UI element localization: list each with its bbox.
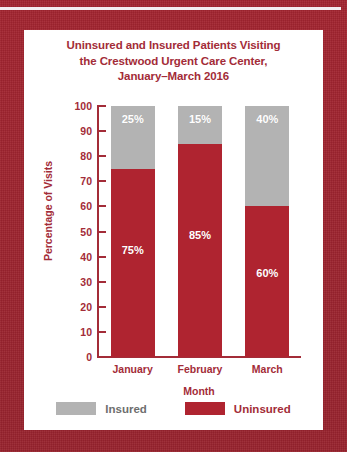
bar-segment-uninsured: 75% (111, 169, 155, 357)
y-axis-tick (99, 306, 106, 308)
x-axis-tick-label: January (99, 363, 166, 375)
legend-swatch (56, 402, 96, 415)
y-axis-tick (99, 231, 106, 233)
bar-value-label: 85% (189, 229, 211, 241)
y-axis-tick-label: 100 (24, 100, 92, 112)
y-axis-tick-label: 10 (24, 326, 92, 338)
y-axis-tick (99, 180, 106, 182)
bar-segment-uninsured: 60% (245, 206, 289, 357)
y-axis-tick (99, 155, 106, 157)
legend-swatch (185, 402, 225, 415)
legend-item[interactable]: Insured (56, 402, 147, 415)
y-axis-tick (99, 130, 106, 132)
chart-card: Uninsured and Insured Patients Visiting … (24, 30, 323, 430)
y-axis-tick (99, 205, 106, 207)
bar-value-label: 15% (189, 113, 211, 125)
bar-value-label: 60% (256, 267, 278, 279)
chart-legend: InsuredUninsured (24, 402, 323, 415)
bar-segment-insured: 15% (178, 106, 222, 144)
y-axis-tick (99, 356, 106, 358)
y-axis-tick-label: 60 (24, 200, 92, 212)
y-axis-tick-label: 90 (24, 125, 92, 137)
y-axis-tick (99, 281, 106, 283)
legend-label: Insured (105, 403, 147, 415)
bar-value-label: 25% (122, 113, 144, 125)
legend-label: Uninsured (234, 403, 291, 415)
y-axis-tick (99, 331, 106, 333)
y-axis-tick (99, 105, 106, 107)
x-axis-tick-label: February (166, 363, 233, 375)
bar-segment-uninsured: 85% (178, 144, 222, 357)
bar-segment-insured: 40% (245, 106, 289, 206)
plot-area: 0102030405060708090100 Percentage of Vis… (24, 30, 323, 430)
top-divider-rule (0, 7, 341, 10)
legend-item[interactable]: Uninsured (185, 402, 291, 415)
bar-segment-insured: 25% (111, 106, 155, 169)
bar-group: 15%85% (178, 106, 222, 357)
bar-value-label: 40% (256, 113, 278, 125)
y-axis-tick-label: 0 (24, 351, 92, 363)
y-axis-tick-label: 80 (24, 150, 92, 162)
x-axis-title: Month (97, 385, 301, 397)
y-axis-tick-label: 30 (24, 276, 92, 288)
y-axis-tick-label: 70 (24, 175, 92, 187)
y-axis-tick-label: 40 (24, 251, 92, 263)
y-axis-title: Percentage of Visits (42, 146, 54, 276)
y-axis-tick (99, 256, 106, 258)
bar-group: 25%75% (111, 106, 155, 357)
x-axis-tick-label: March (234, 363, 301, 375)
y-axis-tick-label: 20 (24, 301, 92, 313)
bar-value-label: 75% (122, 244, 144, 256)
bar-group: 40%60% (245, 106, 289, 357)
y-axis-tick-label: 50 (24, 226, 92, 238)
